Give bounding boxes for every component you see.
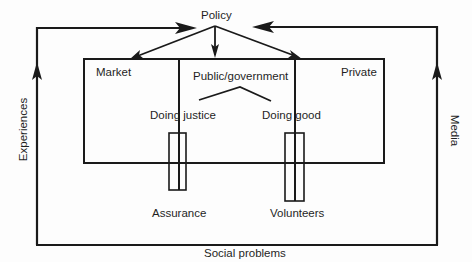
volunteers-label: Volunteers (270, 207, 324, 220)
diagram-canvas: Policy Market Public/government Private … (0, 0, 472, 262)
doing-justice-label: Doing justice (150, 109, 216, 122)
diagram-lines (0, 0, 472, 262)
assurance-label: Assurance (152, 207, 206, 220)
market-label: Market (96, 66, 131, 79)
public-government-label: Public/government (193, 70, 288, 83)
experiences-label: Experiences (17, 95, 30, 165)
doing-good-label: Doing good (262, 109, 321, 122)
small-boxes (169, 133, 304, 201)
social-problems-label: Social problems (204, 247, 286, 260)
policy-label: Policy (201, 9, 232, 22)
policy-arrowheads (130, 44, 302, 59)
chevron-shape (199, 87, 271, 101)
private-label: Private (341, 66, 377, 79)
assurance-box (169, 133, 186, 190)
media-label: Media (448, 111, 461, 151)
